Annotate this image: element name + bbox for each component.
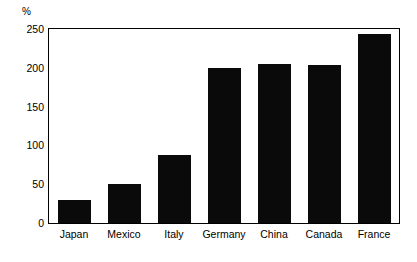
bar <box>108 184 141 223</box>
y-axis-tick-label: 100 <box>0 140 44 150</box>
bar-slot <box>358 29 391 223</box>
bar-slot <box>108 29 141 223</box>
bar <box>58 200 91 223</box>
bars-layer <box>49 29 399 223</box>
x-axis-tick-label: Germany <box>199 228 249 240</box>
bar <box>358 34 391 223</box>
bar <box>208 68 241 223</box>
bar-slot <box>58 29 91 223</box>
bar-slot <box>258 29 291 223</box>
bar <box>308 65 341 223</box>
bar-slot <box>308 29 341 223</box>
bar-chart: % 050100150200250 JapanMexicoItalyGerman… <box>0 0 417 262</box>
x-axis-tick-label: China <box>249 228 299 240</box>
bar-slot <box>158 29 191 223</box>
y-axis-tick-label: 250 <box>0 24 44 34</box>
y-axis-tick-label: 200 <box>0 63 44 73</box>
y-axis-unit-label: % <box>22 7 31 17</box>
x-axis-tick-label: Italy <box>149 228 199 240</box>
y-axis-tick-label: 0 <box>0 218 44 228</box>
y-axis-tick-label: 150 <box>0 102 44 112</box>
x-axis-tick-label: France <box>349 228 399 240</box>
y-axis-tick-label: 50 <box>0 179 44 189</box>
y-axis-tick-labels: 050100150200250 <box>0 28 44 224</box>
bar <box>158 155 191 223</box>
bar <box>258 64 291 223</box>
x-axis-tick-label: Canada <box>299 228 349 240</box>
x-axis-tick-label: Mexico <box>99 228 149 240</box>
x-axis-tick-label: Japan <box>49 228 99 240</box>
x-axis-tick-labels: JapanMexicoItalyGermanyChinaCanadaFrance <box>49 228 399 246</box>
bar-slot <box>208 29 241 223</box>
